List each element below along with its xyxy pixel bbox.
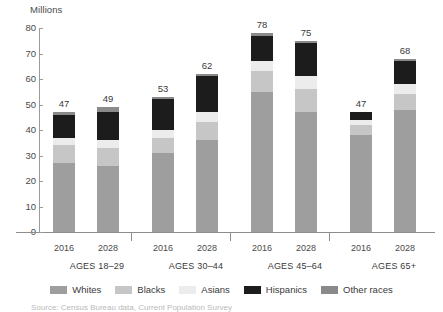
bar-segment-asians: [196, 112, 218, 122]
bar-segment-blacks: [394, 94, 416, 109]
bar-segment-blacks: [196, 122, 218, 140]
y-axis-tick: [39, 79, 43, 80]
x-axis-group-label: AGES 45–64: [245, 261, 345, 271]
y-axis-tick-label: 80: [6, 23, 36, 33]
bar-2028-ages-18–29: [97, 107, 119, 232]
x-axis-year-label: 2028: [187, 243, 227, 253]
y-axis-tick-label: 40: [6, 125, 36, 135]
x-axis-group-label: AGES 18–29: [47, 261, 147, 271]
x-axis-year-label: 2028: [88, 243, 128, 253]
legend-swatch-icon: [321, 286, 338, 294]
bar-segment-asians: [394, 84, 416, 94]
bar-segment-asians: [53, 138, 75, 146]
x-axis-line: [16, 232, 435, 233]
bar-total-label: 53: [143, 84, 183, 94]
bar-segment-hispanics: [295, 43, 317, 76]
bar-segment-whites: [350, 135, 372, 232]
group-separator: [230, 232, 231, 241]
group-separator: [329, 232, 330, 241]
x-axis-year-label: 2016: [242, 243, 282, 253]
bar-segment-whites: [196, 140, 218, 232]
bar-2016-ages-30–44: [152, 97, 174, 232]
bar-segment-asians: [295, 76, 317, 89]
bar-segment-asians: [152, 130, 174, 138]
legend-item-other-races[interactable]: Other races: [321, 284, 393, 295]
legend-swatch-icon: [244, 286, 261, 294]
bar-total-label: 49: [88, 94, 128, 104]
y-axis-tick-label: 60: [6, 74, 36, 84]
y-axis-tick: [39, 28, 43, 29]
bar-segment-blacks: [350, 125, 372, 135]
y-axis-tick-label: 70: [6, 49, 36, 59]
legend-swatch-icon: [115, 286, 132, 294]
y-axis-tick: [39, 232, 43, 233]
legend-swatch-icon: [179, 286, 196, 294]
bar-segment-whites: [152, 153, 174, 232]
bar-total-label: 47: [341, 99, 381, 109]
bar-segment-blacks: [152, 138, 174, 153]
bar-2016-ages-18–29: [53, 112, 75, 232]
bar-segment-blacks: [97, 148, 119, 166]
y-axis-tick-label: 10: [6, 202, 36, 212]
bar-segment-asians: [97, 140, 119, 148]
bar-segment-asians: [251, 61, 273, 71]
bar-segment-whites: [394, 110, 416, 232]
bar-2028-ages-65+: [394, 59, 416, 232]
legend-item-whites[interactable]: Whites: [50, 284, 101, 295]
x-axis-group-label: AGES 65+: [344, 261, 443, 271]
bar-segment-hispanics: [53, 115, 75, 138]
bar-segment-hispanics: [97, 112, 119, 140]
y-axis-tick: [39, 156, 43, 157]
bar-segment-hispanics: [350, 112, 372, 120]
bar-2028-ages-30–44: [196, 74, 218, 232]
y-axis-tick: [39, 181, 43, 182]
bar-segment-hispanics: [152, 99, 174, 130]
bar-segment-whites: [295, 112, 317, 232]
y-axis-labels: 01020304050607080: [0, 0, 36, 311]
bar-segment-blacks: [295, 89, 317, 112]
x-axis-year-label: 2028: [286, 243, 326, 253]
legend-item-blacks[interactable]: Blacks: [115, 284, 165, 295]
legend-label: Asians: [201, 284, 230, 295]
bar-segment-hispanics: [251, 36, 273, 62]
legend-label: Hispanics: [266, 284, 307, 295]
legend-label: Other races: [343, 284, 393, 295]
bar-total-label: 78: [242, 20, 282, 30]
legend-item-hispanics[interactable]: Hispanics: [244, 284, 307, 295]
bar-segment-whites: [53, 163, 75, 232]
y-axis-tick: [39, 207, 43, 208]
legend-swatch-icon: [50, 286, 67, 294]
y-axis-tick: [39, 54, 43, 55]
y-axis-tick-label: 30: [6, 151, 36, 161]
bar-segment-hispanics: [196, 76, 218, 112]
y-axis-tick-label: 50: [6, 100, 36, 110]
plot-area: [39, 28, 435, 232]
bar-segment-blacks: [53, 145, 75, 163]
bar-total-label: 62: [187, 61, 227, 71]
bar-2016-ages-45–64: [251, 33, 273, 232]
chart-legend: WhitesBlacksAsiansHispanicsOther races: [0, 284, 443, 295]
bar-2028-ages-45–64: [295, 41, 317, 232]
group-separator: [131, 232, 132, 241]
bar-segment-blacks: [251, 71, 273, 91]
x-axis-year-label: 2016: [341, 243, 381, 253]
x-axis-year-label: 2016: [143, 243, 183, 253]
y-axis-tick: [39, 105, 43, 106]
legend-item-asians[interactable]: Asians: [179, 284, 230, 295]
x-axis-year-label: 2016: [44, 243, 84, 253]
bar-segment-whites: [251, 92, 273, 232]
y-axis-tick: [39, 130, 43, 131]
legend-label: Whites: [72, 284, 101, 295]
legend-label: Blacks: [137, 284, 165, 295]
bar-total-label: 75: [286, 28, 326, 38]
bar-total-label: 47: [44, 99, 84, 109]
x-axis-group-label: AGES 30–44: [146, 261, 246, 271]
bar-segment-whites: [97, 166, 119, 232]
bar-total-label: 68: [385, 46, 425, 56]
source-note: Source: Census Bureau data, Current Popu…: [31, 303, 232, 312]
bar-2016-ages-65+: [350, 112, 372, 232]
x-axis-year-label: 2028: [385, 243, 425, 253]
y-axis-tick-label: 20: [6, 176, 36, 186]
bar-segment-hispanics: [394, 61, 416, 84]
